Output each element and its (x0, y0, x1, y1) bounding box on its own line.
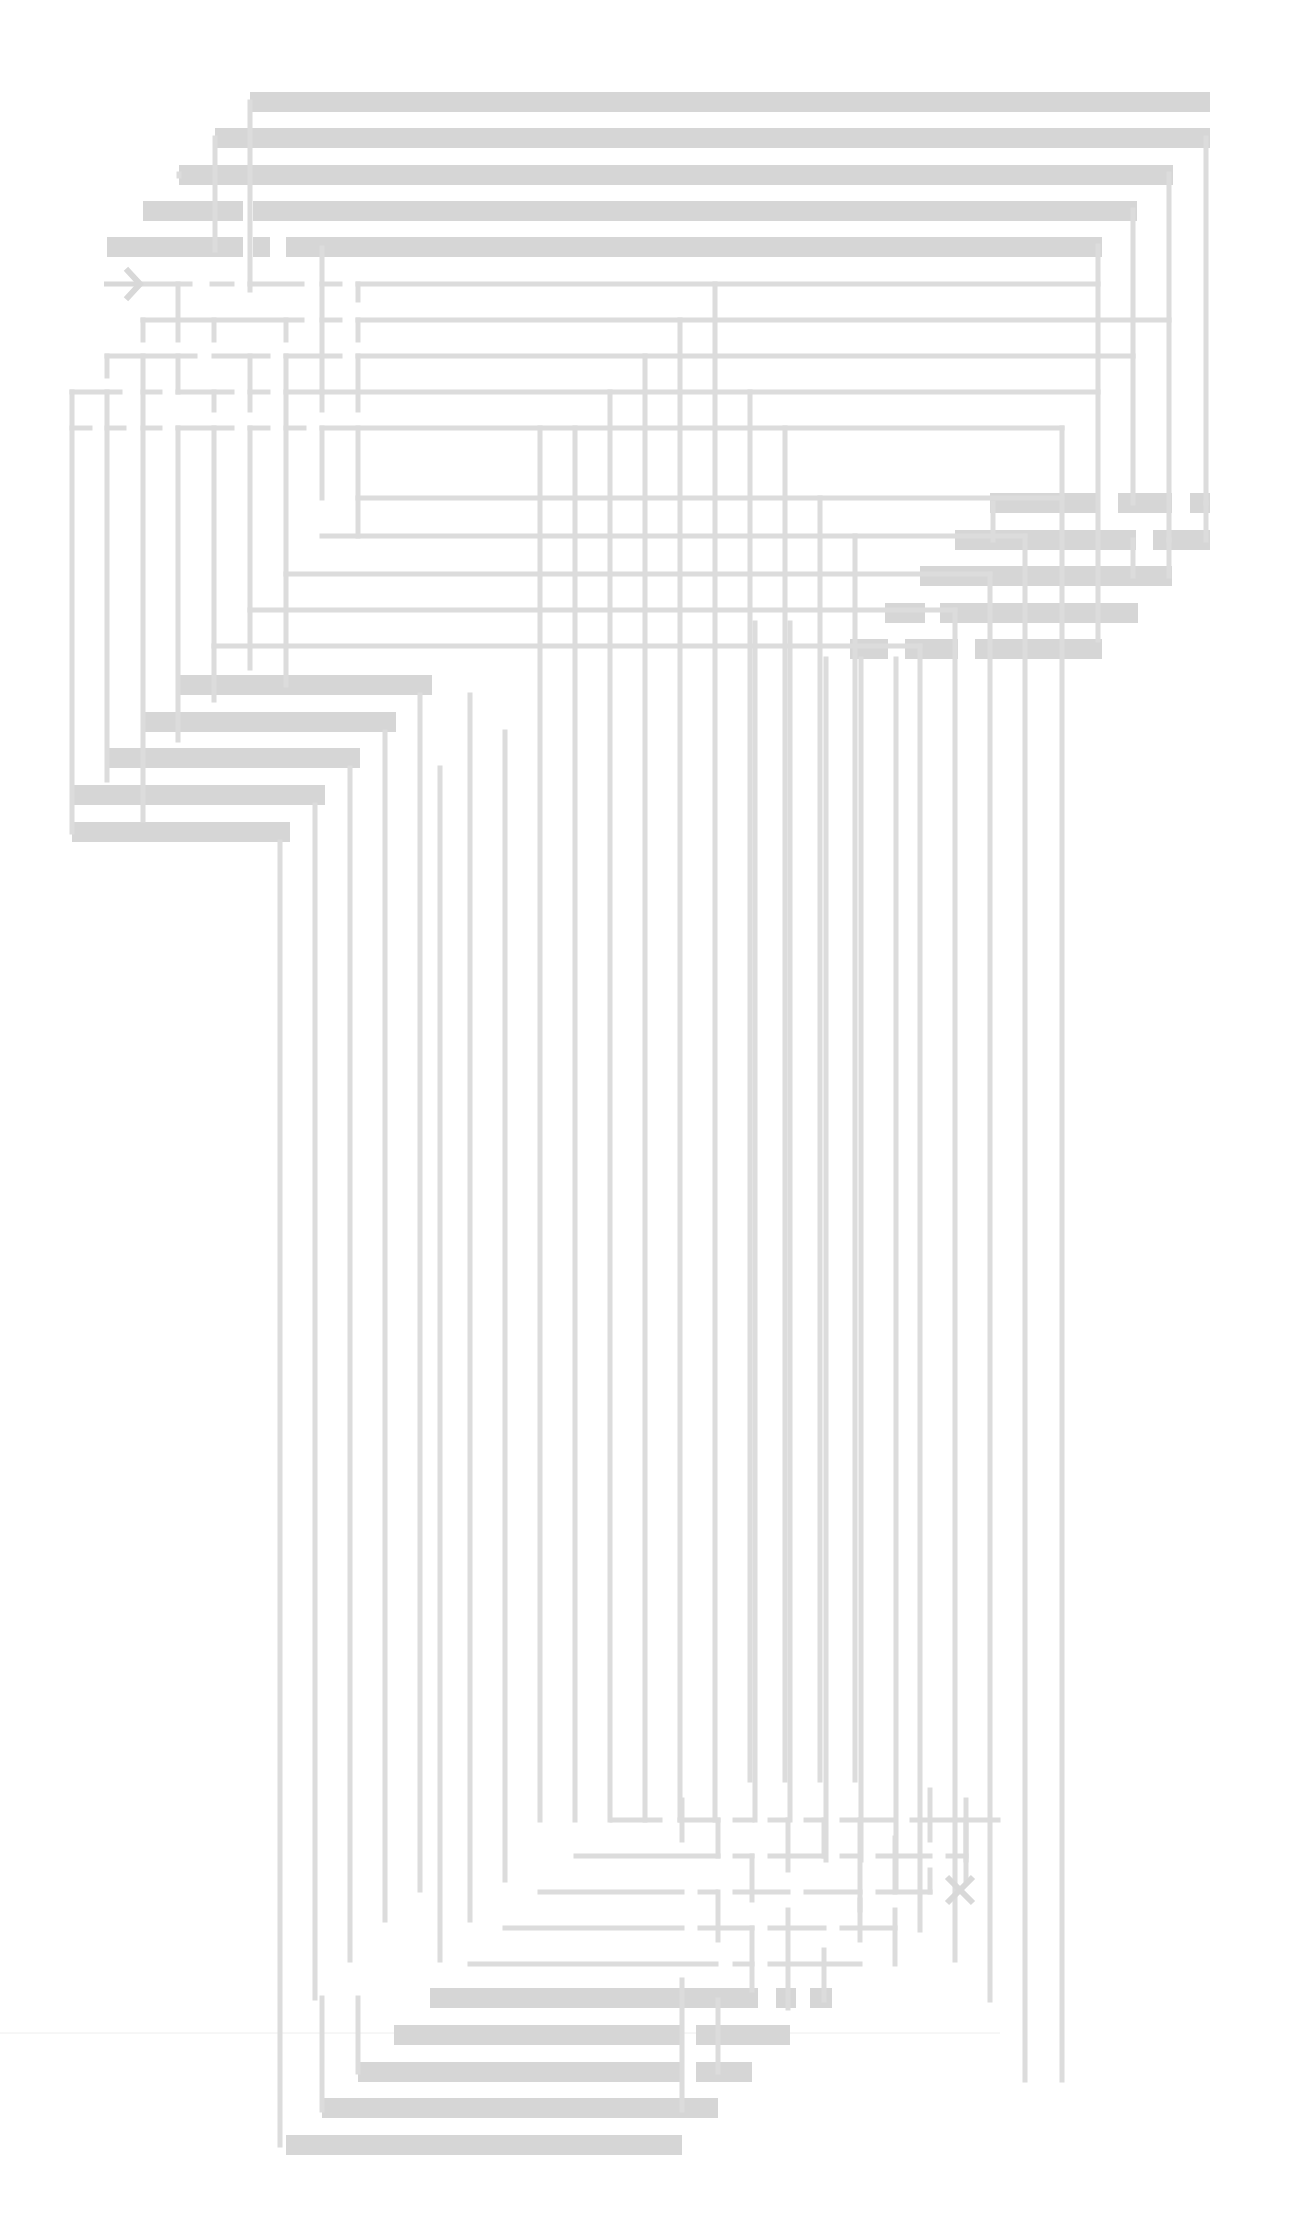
thick-wall-segment (955, 530, 1136, 550)
thin-walls (72, 102, 1206, 2145)
thick-wall-segment (696, 2025, 790, 2045)
thick-wall-segment (72, 822, 290, 842)
thick-wall-segment (1118, 493, 1172, 513)
thick-wall-segment (179, 165, 1173, 185)
maze-diagram: Maze (0, 0, 1296, 2233)
thick-wall-segment (286, 2135, 682, 2155)
thick-wall-segment (107, 237, 243, 257)
thick-wall-segment (143, 201, 243, 221)
start-arrow-icon (104, 271, 140, 297)
thick-wall-segment (1153, 530, 1210, 550)
thick-wall-segment (940, 603, 1138, 623)
thick-wall-segment (253, 237, 270, 257)
thick-walls (72, 92, 1210, 2155)
thick-wall-segment (253, 201, 1137, 221)
thick-wall-segment (72, 785, 325, 805)
thick-wall-segment (322, 2098, 718, 2118)
maze-canvas (0, 0, 1296, 2233)
end-x-icon (947, 1877, 973, 1903)
thick-wall-segment (430, 1988, 758, 2008)
thick-wall-segment (394, 2025, 682, 2045)
thick-wall-segment (696, 2062, 752, 2082)
thick-wall-segment (250, 92, 1210, 112)
thick-wall-segment (885, 603, 925, 623)
thick-wall-segment (358, 2062, 682, 2082)
thick-wall-segment (810, 1988, 832, 2008)
thick-wall-segment (905, 639, 958, 659)
thick-wall-segment (286, 237, 1102, 257)
thick-wall-segment (215, 128, 1210, 148)
thick-wall-segment (975, 639, 1102, 659)
